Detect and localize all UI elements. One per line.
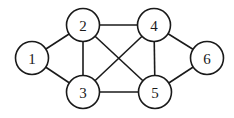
graph-diagram: 123456 <box>0 0 234 118</box>
edges-group <box>32 25 207 92</box>
node-label: 1 <box>28 51 36 67</box>
node-label: 2 <box>79 18 87 34</box>
node-2: 2 <box>67 9 100 42</box>
node-label: 3 <box>79 85 87 101</box>
node-1: 1 <box>16 42 49 75</box>
node-6: 6 <box>191 42 224 75</box>
node-4: 4 <box>138 9 171 42</box>
node-label: 4 <box>150 18 158 34</box>
node-3: 3 <box>67 76 100 109</box>
node-label: 6 <box>203 51 211 67</box>
node-label: 5 <box>151 85 159 101</box>
node-5: 5 <box>139 76 172 109</box>
